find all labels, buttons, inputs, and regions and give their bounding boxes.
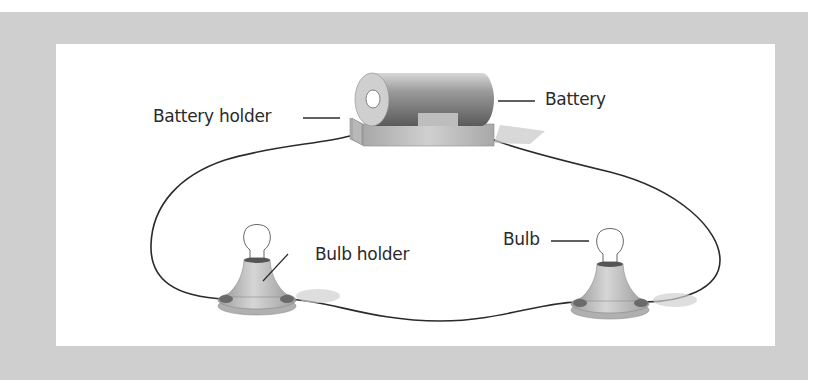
battery-holder-label: Battery holder — [153, 108, 271, 125]
bulb-label: Bulb — [503, 231, 540, 248]
battery-label: Battery — [545, 91, 606, 108]
bulb-holder-icon — [218, 257, 340, 315]
bulb-holder-label: Bulb holder — [315, 246, 409, 263]
circuit-diagram — [0, 0, 834, 383]
bulb-icon — [244, 225, 271, 259]
bulb-holder-icon — [571, 261, 697, 319]
bulb-icon — [597, 229, 624, 263]
wire-left-to-right-bulb — [286, 299, 580, 321]
